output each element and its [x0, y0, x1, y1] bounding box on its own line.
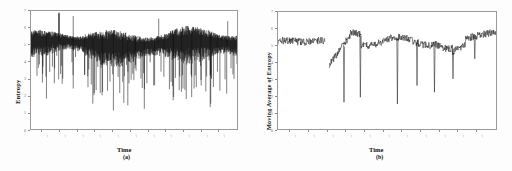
- subcaption-a: (a): [123, 154, 130, 160]
- x-tick-mark: [289, 130, 290, 132]
- plot-area-a: [30, 10, 238, 130]
- y-tick-mark: [275, 96, 277, 97]
- y-tick-mark: [28, 79, 30, 80]
- x-tick-mark: [383, 130, 384, 132]
- panel-a: Entropy Time (a) 01234567⁄⁄⁄⁄⁄⁄⁄⁄⁄⁄⁄⁄⁄⁄⁄…: [0, 0, 256, 171]
- y-tick-mark: [28, 27, 30, 28]
- y-tick-mark: [28, 10, 30, 11]
- y-tick-label: 1: [262, 111, 273, 116]
- x-tick-label: ⁄⁄: [64, 134, 68, 138]
- entropy-trace: [31, 13, 237, 111]
- x-tick-label: ⁄⁄: [205, 134, 209, 138]
- x-tick-label: ⁄⁄: [387, 134, 391, 138]
- y-tick-mark: [28, 130, 30, 131]
- subcaption-b: (b): [376, 154, 383, 160]
- x-tick-label: ⁄⁄: [424, 134, 428, 138]
- y-tick-label: 2: [262, 94, 273, 99]
- y-tick-label: 7: [15, 8, 26, 13]
- y-tick-mark: [28, 61, 30, 62]
- y-tick-label: 6: [15, 25, 26, 30]
- x-tick-mark: [457, 130, 458, 132]
- y-tick-mark: [275, 79, 277, 80]
- y-tick-label: 0: [15, 128, 26, 133]
- x-tick-mark: [77, 130, 78, 132]
- x-tick-label: ⁄⁄: [170, 134, 174, 138]
- x-tick-mark: [364, 130, 365, 132]
- x-tick-label: ⁄⁄: [81, 134, 85, 138]
- y-tick-mark: [275, 11, 277, 12]
- x-tick-label: ⁄⁄: [480, 134, 484, 138]
- x-tick-mark: [148, 130, 149, 132]
- y-tick-mark: [275, 130, 277, 131]
- entropy-series-plot: [31, 11, 237, 129]
- x-tick-label: ⁄⁄: [406, 134, 410, 138]
- x-tick-mark: [308, 130, 309, 132]
- x-tick-label: ⁄⁄: [134, 134, 138, 138]
- x-tick-mark: [165, 130, 166, 132]
- x-tick-mark: [218, 130, 219, 132]
- x-tick-mark: [94, 130, 95, 132]
- x-tick-mark: [345, 130, 346, 132]
- y-tick-mark: [28, 113, 30, 114]
- x-tick-mark: [439, 130, 440, 132]
- x-tick-label: ⁄⁄: [152, 134, 156, 138]
- x-tick-mark: [59, 130, 60, 132]
- y-tick-mark: [275, 113, 277, 114]
- moving-average-series-plot: [278, 12, 496, 129]
- y-tick-label: 7: [262, 9, 273, 14]
- x-tick-mark: [420, 130, 421, 132]
- figure-container: Entropy Time (a) 01234567⁄⁄⁄⁄⁄⁄⁄⁄⁄⁄⁄⁄⁄⁄⁄…: [0, 0, 512, 171]
- y-tick-label: 4: [15, 59, 26, 64]
- x-tick-mark: [476, 130, 477, 132]
- y-tick-label: 0: [262, 128, 273, 133]
- x-tick-mark: [183, 130, 184, 132]
- x-tick-label: ⁄⁄: [368, 134, 372, 138]
- x-axis-label-a: Time: [117, 146, 131, 153]
- x-axis-label-b: Time: [369, 146, 383, 153]
- y-tick-label: 5: [15, 42, 26, 47]
- y-tick-label: 4: [262, 60, 273, 65]
- x-tick-mark: [130, 130, 131, 132]
- x-tick-label: ⁄⁄: [117, 134, 121, 138]
- x-tick-label: ⁄⁄: [312, 134, 316, 138]
- y-tick-label: 5: [262, 43, 273, 48]
- y-tick-mark: [28, 44, 30, 45]
- x-tick-label: ⁄⁄: [462, 134, 466, 138]
- x-tick-mark: [112, 130, 113, 132]
- y-tick-mark: [28, 96, 30, 97]
- y-axis-label-a: Entropy: [14, 80, 21, 104]
- x-tick-label: ⁄⁄: [293, 134, 297, 138]
- x-tick-label: ⁄⁄: [443, 134, 447, 138]
- y-tick-label: 3: [15, 76, 26, 81]
- x-tick-label: ⁄⁄: [223, 134, 227, 138]
- x-tick-label: ⁄⁄: [99, 134, 103, 138]
- y-tick-mark: [275, 45, 277, 46]
- plot-area-b: [277, 11, 497, 130]
- y-tick-label: 6: [262, 26, 273, 31]
- y-tick-label: 1: [15, 110, 26, 115]
- y-tick-label: 2: [15, 93, 26, 98]
- moving-average-trace: [278, 30, 496, 104]
- panel-b: Moving Average of Entropy Time (b) 01234…: [256, 0, 512, 171]
- y-tick-mark: [275, 62, 277, 63]
- x-tick-mark: [41, 130, 42, 132]
- x-tick-label: ⁄⁄: [350, 134, 354, 138]
- x-tick-mark: [201, 130, 202, 132]
- y-tick-mark: [275, 28, 277, 29]
- x-tick-mark: [327, 130, 328, 132]
- x-tick-label: ⁄⁄: [331, 134, 335, 138]
- x-tick-label: ⁄⁄: [187, 134, 191, 138]
- y-tick-label: 3: [262, 77, 273, 82]
- x-tick-mark: [401, 130, 402, 132]
- x-tick-label: ⁄⁄: [46, 134, 50, 138]
